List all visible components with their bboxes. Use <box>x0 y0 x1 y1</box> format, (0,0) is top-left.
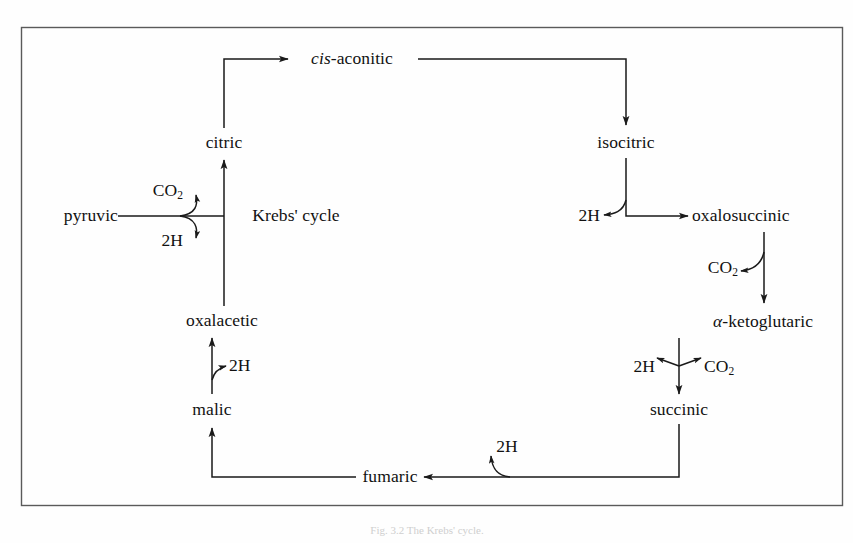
co2-text: CO <box>153 180 178 200</box>
cofactor-co2-pyruvic: CO2 <box>153 182 183 202</box>
edge-cis-aconitic-to-isocitric <box>418 59 626 125</box>
edge-citric-to-cis-aconitic <box>224 59 288 128</box>
node-label-cis-aconitic: cis-aconitic <box>311 50 393 68</box>
edge-fumaric-to-malic <box>212 428 356 477</box>
curve-2h-ketoglutaric <box>657 358 679 366</box>
cofactor-2h-isocitric: 2H <box>578 207 600 225</box>
cofactor-2h-pyruvic: 2H <box>161 232 183 250</box>
cofactor-2h-malic: 2H <box>229 357 251 375</box>
cofactor-co2-oxalosuccinic: CO2 <box>708 259 738 279</box>
edge-succinic-to-fumaric <box>424 424 679 477</box>
curve-2h-isocitric <box>604 200 626 215</box>
edge-isocitric-to-oxalosuccinic <box>626 158 688 216</box>
curve-2h-malic <box>212 366 226 380</box>
node-label-oxalosuccinic: oxalosuccinic <box>692 207 790 225</box>
co2-text: CO <box>704 356 729 376</box>
ketoglutaric-rest: -ketoglutaric <box>722 311 813 331</box>
co2-subscript: 2 <box>177 189 183 201</box>
cofactor-2h-ketoglutaric: 2H <box>633 358 655 376</box>
node-label-malic: malic <box>192 401 231 419</box>
node-label-citric: citric <box>206 134 243 152</box>
cycle-center-label: Krebs' cycle <box>252 207 339 225</box>
alpha-prefix: α <box>713 311 722 331</box>
node-label-alpha-ketoglutaric: α-ketoglutaric <box>713 313 813 331</box>
node-label-succinic: succinic <box>650 401 708 419</box>
curve-co2-oxalosuccinic <box>741 252 764 271</box>
curve-2h-fumaric <box>491 456 510 477</box>
co2-subscript: 2 <box>729 365 735 377</box>
cis-prefix: cis <box>311 48 331 68</box>
node-label-oxalacetic: oxalacetic <box>186 312 258 330</box>
cofactor-co2-ketoglutaric: CO2 <box>704 358 734 378</box>
aconitic-rest: -aconitic <box>331 48 393 68</box>
node-label-isocitric: isocitric <box>597 134 654 152</box>
figure-caption: Fig. 3.2 The Krebs' cycle. <box>370 524 483 536</box>
figure-canvas: pyruvic citric cis-aconitic isocitric ox… <box>0 0 853 543</box>
node-label-pyruvic: pyruvic <box>64 207 118 225</box>
co2-text: CO <box>708 257 733 277</box>
co2-subscript: 2 <box>732 266 738 278</box>
cofactor-2h-fumaric: 2H <box>496 438 518 456</box>
curve-co2-ketoglutaric <box>679 358 701 366</box>
node-label-fumaric: fumaric <box>362 468 417 486</box>
